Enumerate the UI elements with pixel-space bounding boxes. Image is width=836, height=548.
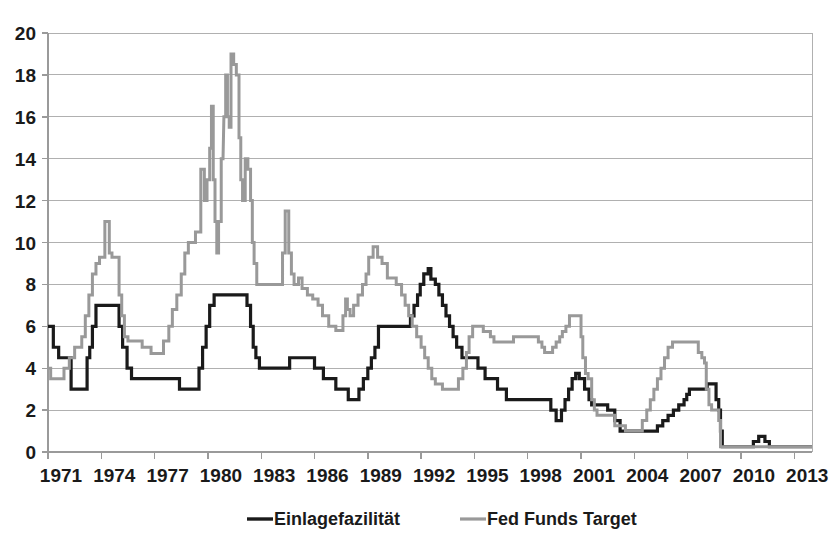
x-axis-tick-label: 1995	[466, 465, 509, 486]
x-axis-tick-label: 1977	[146, 465, 188, 486]
y-axis-tick-label: 10	[15, 233, 36, 254]
legend-label-1: Fed Funds Target	[487, 509, 637, 529]
x-axis-tick-label: 1992	[413, 465, 455, 486]
y-axis-tick-label: 18	[15, 65, 36, 86]
x-axis-ticks	[48, 452, 794, 459]
chart-legend: EinlagefazilitätFed Funds Target	[247, 509, 637, 529]
x-axis-tick-label: 1983	[253, 465, 295, 486]
y-axis-ticks	[42, 33, 48, 452]
y-axis-tick-label: 0	[25, 442, 36, 463]
legend-label-0: Einlagefazilität	[274, 509, 400, 529]
x-axis-tick-label: 1989	[360, 465, 402, 486]
line-chart: 02468101214161820 1971197419771980198319…	[0, 0, 836, 548]
y-axis-tick-label: 2	[25, 400, 36, 421]
y-axis-tick-label: 14	[15, 149, 37, 170]
y-axis-labels: 02468101214161820	[15, 23, 37, 463]
x-axis-tick-label: 1971	[40, 465, 83, 486]
series-line-einlagefazilitaet	[48, 269, 812, 447]
y-axis-tick-label: 20	[15, 23, 36, 44]
x-axis-tick-label: 2010	[733, 465, 775, 486]
x-axis-tick-label: 2007	[679, 465, 721, 486]
x-axis-tick-label: 1986	[306, 465, 348, 486]
x-axis-tick-label: 2013	[786, 465, 828, 486]
x-axis-tick-label: 2001	[573, 465, 616, 486]
y-axis-tick-label: 4	[25, 358, 36, 379]
y-axis-tick-label: 16	[15, 107, 36, 128]
x-axis-tick-label: 1980	[200, 465, 242, 486]
data-series	[48, 54, 812, 447]
y-axis-tick-label: 12	[15, 191, 36, 212]
chart-container: 02468101214161820 1971197419771980198319…	[0, 0, 836, 548]
y-axis-tick-label: 8	[25, 274, 36, 295]
x-axis-tick-label: 2004	[626, 465, 669, 486]
x-axis-labels: 1971197419771980198319861989199219951998…	[40, 465, 829, 486]
y-axis-tick-label: 6	[25, 316, 36, 337]
x-axis-tick-label: 1974	[93, 465, 136, 486]
x-axis-tick-label: 1998	[520, 465, 562, 486]
